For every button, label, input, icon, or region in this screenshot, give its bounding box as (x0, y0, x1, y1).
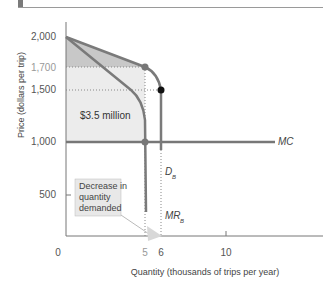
x-tick-6: 6 (158, 247, 164, 258)
annotation-arrow-head (147, 226, 162, 241)
y-tick-1700: 1,700 (31, 62, 56, 73)
area-label: $3.5 million (80, 110, 131, 121)
demand-label-sub: B (172, 174, 176, 180)
y-axis-title: Price (dollars per trip) (16, 52, 26, 138)
mr-label-sub: B (180, 218, 184, 224)
point-5-1700 (142, 64, 149, 71)
x-tick-0: 0 (55, 247, 61, 258)
point-5-1000 (142, 139, 149, 146)
annotation-line-1: Decrease in (79, 181, 127, 191)
mr-label: MR (165, 210, 181, 221)
chart: Decrease in quantity demanded $3.5 milli… (0, 0, 323, 285)
x-tick-10: 10 (220, 247, 232, 258)
mc-label: MC (278, 136, 294, 147)
y-tick-500: 500 (39, 189, 56, 200)
x-tick-5: 5 (142, 247, 148, 258)
y-tick-2000: 2,000 (31, 31, 56, 42)
point-6-1500 (158, 87, 165, 94)
y-tick-1500: 1,500 (31, 84, 56, 95)
x-axis-title: Quantity (thousands of trips per year) (131, 267, 280, 277)
annotation-arrow-line (118, 213, 152, 236)
annotation-line-3: demanded (79, 203, 122, 213)
annotation-line-2: quantity (79, 192, 111, 202)
y-tick-1000: 1,000 (31, 136, 56, 147)
